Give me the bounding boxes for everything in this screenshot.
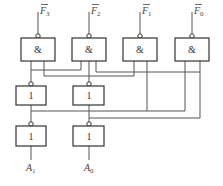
middle-gate-0: 1: [73, 82, 104, 105]
svg-text:F2: F2: [90, 5, 101, 18]
input-label-f2: F2: [90, 5, 101, 19]
svg-text:F0: F0: [193, 5, 204, 18]
wire-and2-branch: [96, 61, 200, 72]
svg-text:&: &: [188, 44, 196, 55]
svg-text:&: &: [85, 44, 93, 55]
and-gate-f3: &: [21, 34, 55, 61]
input-label-f1: F1: [141, 5, 152, 19]
bus-a1: [31, 105, 185, 111]
and-gate-f0: &: [175, 34, 209, 61]
svg-text:F3: F3: [39, 5, 50, 18]
logic-circuit-diagram: F3 F2 F1 F0 & & &: [0, 0, 223, 186]
svg-text:&: &: [34, 44, 42, 55]
middle-gate-1: 1: [16, 82, 46, 105]
svg-text:1: 1: [87, 90, 92, 101]
output-gate-a1: 1: [16, 122, 46, 146]
output-label-a0: A0: [83, 162, 94, 175]
output-gate-a0: 1: [73, 122, 104, 146]
svg-text:1: 1: [87, 131, 92, 142]
output-label-a1: A1: [25, 162, 36, 175]
svg-text:1: 1: [29, 90, 34, 101]
input-label-f0: F0: [193, 5, 204, 19]
wire-and2-to-or1: [31, 61, 81, 70]
and-gate-f2: &: [72, 34, 106, 61]
svg-text:1: 1: [29, 131, 34, 142]
and-gate-f1: &: [123, 34, 157, 61]
svg-text:F1: F1: [141, 5, 152, 18]
input-label-f3: F3: [39, 5, 50, 19]
svg-text:&: &: [136, 44, 144, 55]
